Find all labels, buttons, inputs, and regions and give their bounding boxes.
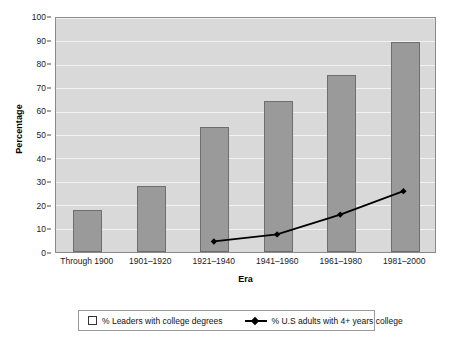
line-series-svg xyxy=(56,18,435,252)
legend-diamond-marker-icon xyxy=(250,316,258,324)
y-tick-label: 50 xyxy=(37,130,46,140)
y-tick-mark xyxy=(47,135,51,136)
x-tick-label: Through 1900 xyxy=(60,256,113,266)
y-tick-mark xyxy=(47,229,51,230)
legend-item-label: % Leaders with college degrees xyxy=(102,316,223,326)
line-marker-1981-2000 xyxy=(400,188,406,194)
x-axis-title: Era xyxy=(55,274,436,284)
y-tick-label: 60 xyxy=(37,106,46,116)
y-tick-mark xyxy=(47,158,51,159)
x-tick-label: 1921–1940 xyxy=(192,256,235,266)
x-tick-label: 1941–1960 xyxy=(256,256,299,266)
y-tick-mark xyxy=(47,64,51,65)
y-tick-label: 70 xyxy=(37,83,46,93)
y-tick-mark xyxy=(47,87,51,88)
chart-container: Percentage 100 90 80 70 60 50 40 30 20 1… xyxy=(0,0,449,345)
y-tick-mark xyxy=(47,111,51,112)
x-axis-tick-labels: Through 19001901–19201921–19401941–19601… xyxy=(55,256,436,270)
line-marker-1961-1980 xyxy=(337,211,343,217)
y-tick-mark xyxy=(47,40,51,41)
line-marker-1921-1940 xyxy=(211,238,217,244)
legend-item-us-adults: % U.S adults with 4+ years college xyxy=(245,316,403,326)
y-tick-mark xyxy=(47,17,51,18)
y-tick-label: 10 xyxy=(37,224,46,234)
y-tick-label: 80 xyxy=(37,59,46,69)
y-tick-label: 90 xyxy=(37,36,46,46)
legend-item-leaders: % Leaders with college degrees xyxy=(88,316,223,326)
legend-bar-swatch-icon xyxy=(88,316,97,325)
x-tick-label: 1981–2000 xyxy=(383,256,426,266)
legend-line-swatch-icon xyxy=(245,316,267,325)
line-marker-1941-1960 xyxy=(274,231,280,237)
plot-area xyxy=(55,17,436,253)
y-tick-label: 0 xyxy=(41,248,46,258)
y-tick-label: 100 xyxy=(32,12,46,22)
legend-item-label: % U.S adults with 4+ years college xyxy=(272,316,403,326)
y-tick-label: 40 xyxy=(37,154,46,164)
x-tick-label: 1901–1920 xyxy=(129,256,172,266)
chart-legend: % Leaders with college degrees % U.S adu… xyxy=(78,310,375,331)
y-tick-mark xyxy=(47,182,51,183)
y-tick-label: 30 xyxy=(37,177,46,187)
y-tick-mark xyxy=(47,205,51,206)
x-tick-label: 1961–1980 xyxy=(319,256,362,266)
line-series-layer xyxy=(56,18,435,252)
y-tick-mark xyxy=(47,253,51,254)
y-tick-label: 20 xyxy=(37,201,46,211)
y-axis-tick-labels: 100 90 80 70 60 50 40 30 20 10 0 xyxy=(22,17,51,253)
line-path xyxy=(214,191,403,241)
